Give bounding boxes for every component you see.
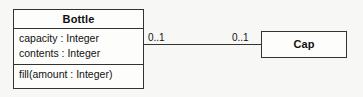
operations-compartment-bottle: fill(amount : Integer) bbox=[14, 65, 143, 88]
class-name-cap: Cap bbox=[262, 32, 346, 57]
class-name-bottle: Bottle bbox=[14, 10, 143, 29]
multiplicity-label-target: 0..1 bbox=[232, 32, 249, 43]
association-line-bottle-cap[interactable] bbox=[144, 44, 261, 45]
uml-class-diagram-canvas: Bottle capacity : Integer contents : Int… bbox=[0, 0, 363, 97]
attribute-capacity: capacity : Integer bbox=[19, 31, 143, 46]
attributes-compartment-bottle: capacity : Integer contents : Integer bbox=[14, 29, 143, 65]
operation-fill: fill(amount : Integer) bbox=[19, 67, 143, 82]
class-box-bottle[interactable]: Bottle capacity : Integer contents : Int… bbox=[13, 9, 144, 89]
multiplicity-label-source: 0..1 bbox=[148, 32, 165, 43]
class-box-cap[interactable]: Cap bbox=[261, 31, 347, 58]
attribute-contents: contents : Integer bbox=[19, 46, 143, 61]
